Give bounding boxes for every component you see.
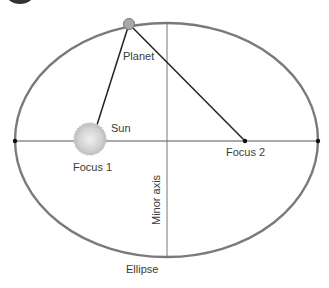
planet-icon bbox=[124, 19, 135, 30]
planet-focus1-line bbox=[96, 24, 129, 128]
planet-focus2-line bbox=[129, 24, 245, 141]
left-vertex-dot bbox=[13, 139, 17, 143]
sun-label: Sun bbox=[111, 122, 131, 134]
orbit-diagram bbox=[0, 0, 329, 288]
sun-icon bbox=[74, 123, 106, 155]
right-vertex-dot bbox=[316, 139, 320, 143]
focus2-dot bbox=[243, 139, 247, 143]
ellipse-label: Ellipse bbox=[126, 263, 158, 275]
focus1-label: Focus 1 bbox=[73, 161, 112, 173]
minor-axis-label: Minor axis bbox=[150, 175, 162, 225]
focus2-label: Focus 2 bbox=[226, 146, 265, 158]
badge-icon bbox=[6, 0, 34, 4]
planet-label: Planet bbox=[123, 50, 154, 62]
